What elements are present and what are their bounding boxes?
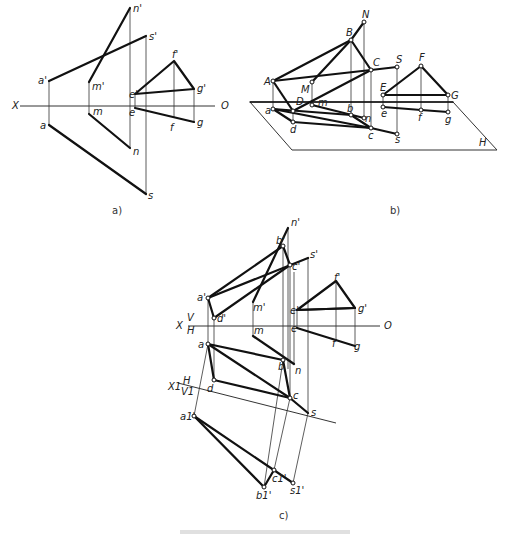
svg-text:c1': c1' bbox=[272, 473, 287, 484]
svg-text:s1': s1' bbox=[290, 485, 304, 496]
svg-text:V: V bbox=[187, 312, 195, 323]
caption-c: c) bbox=[279, 510, 288, 521]
svg-text:g': g' bbox=[197, 83, 206, 94]
svg-text:f': f' bbox=[334, 272, 340, 283]
line-e-g bbox=[135, 108, 194, 122]
svg-text:n: n bbox=[133, 146, 139, 157]
svg-text:m: m bbox=[93, 106, 103, 117]
panel-a: X O n' s' a' m' e' f' g' m e a f g n s a… bbox=[11, 3, 229, 216]
label-x-a: X bbox=[11, 100, 20, 111]
diagram-canvas: X O n' s' a' m' e' f' g' m e a f g n s a… bbox=[0, 0, 513, 536]
svg-text:m': m' bbox=[253, 302, 266, 313]
line-m-n bbox=[89, 114, 130, 148]
svg-text:a1': a1' bbox=[180, 411, 195, 422]
svg-text:f: f bbox=[418, 112, 423, 123]
svg-text:b1': b1' bbox=[256, 490, 271, 501]
svg-text:m: m bbox=[254, 325, 264, 336]
svg-text:G: G bbox=[451, 90, 459, 101]
svg-text:b': b' bbox=[276, 235, 285, 246]
triangle-efg-front bbox=[135, 61, 194, 94]
svg-text:f: f bbox=[170, 122, 175, 133]
svg-text:A: A bbox=[263, 76, 271, 87]
svg-text:C: C bbox=[373, 57, 380, 68]
svg-text:a: a bbox=[198, 339, 204, 350]
svg-text:f': f' bbox=[172, 49, 178, 60]
svg-text:X: X bbox=[175, 320, 184, 331]
svg-text:c': c' bbox=[292, 261, 300, 272]
svg-text:S: S bbox=[396, 54, 403, 65]
svg-text:a: a bbox=[265, 105, 271, 116]
svg-text:B: B bbox=[346, 27, 353, 38]
svg-text:g: g bbox=[354, 341, 360, 352]
svg-text:s: s bbox=[395, 134, 400, 145]
svg-text:N: N bbox=[362, 9, 370, 20]
svg-text:n: n bbox=[365, 113, 371, 124]
svg-text:e: e bbox=[291, 323, 297, 334]
panel-b: H bbox=[250, 9, 497, 216]
svg-text:H: H bbox=[183, 375, 191, 386]
svg-text:m': m' bbox=[92, 81, 105, 92]
svg-text:n': n' bbox=[133, 3, 142, 14]
svg-text:b: b bbox=[347, 103, 353, 114]
svg-text:n: n bbox=[295, 365, 301, 376]
caption-b: b) bbox=[390, 205, 400, 216]
svg-text:g: g bbox=[197, 117, 203, 128]
svg-text:e: e bbox=[381, 108, 387, 119]
svg-text:c: c bbox=[368, 130, 374, 141]
svg-text:s': s' bbox=[149, 31, 157, 42]
figure-caption-faint bbox=[180, 530, 350, 534]
svg-text:s': s' bbox=[310, 249, 318, 260]
svg-text:H: H bbox=[479, 137, 487, 148]
svg-text:V1: V1 bbox=[181, 386, 194, 397]
svg-text:a': a' bbox=[197, 292, 206, 303]
line-a-prime-s-prime bbox=[49, 36, 146, 81]
svg-text:g: g bbox=[445, 114, 451, 125]
svg-text:M: M bbox=[301, 84, 310, 95]
svg-text:e': e' bbox=[129, 89, 138, 100]
panel-c: X V H O X1 H V1 bbox=[167, 217, 392, 521]
line-a-s bbox=[49, 125, 146, 194]
caption-a: a) bbox=[112, 205, 122, 216]
svg-text:e: e bbox=[129, 107, 135, 118]
svg-text:a: a bbox=[40, 120, 46, 131]
svg-text:a': a' bbox=[38, 75, 47, 86]
svg-text:F: F bbox=[419, 52, 425, 63]
line-m-prime-n-prime bbox=[89, 8, 130, 82]
svg-text:d: d bbox=[290, 124, 297, 135]
svg-text:H: H bbox=[187, 325, 195, 336]
svg-text:b: b bbox=[278, 361, 284, 372]
svg-text:g': g' bbox=[358, 303, 367, 314]
svg-text:X1: X1 bbox=[167, 381, 181, 392]
svg-text:m: m bbox=[318, 97, 328, 108]
svg-text:c: c bbox=[293, 390, 299, 401]
svg-text:E: E bbox=[380, 82, 387, 93]
svg-text:d': d' bbox=[217, 313, 226, 324]
svg-text:s: s bbox=[311, 407, 316, 418]
label-o-a: O bbox=[221, 100, 229, 111]
svg-text:O: O bbox=[384, 320, 392, 331]
svg-text:d: d bbox=[207, 383, 214, 394]
svg-text:n': n' bbox=[291, 217, 300, 228]
svg-text:e': e' bbox=[290, 305, 299, 316]
svg-text:s: s bbox=[148, 190, 153, 201]
svg-text:D: D bbox=[296, 96, 304, 107]
